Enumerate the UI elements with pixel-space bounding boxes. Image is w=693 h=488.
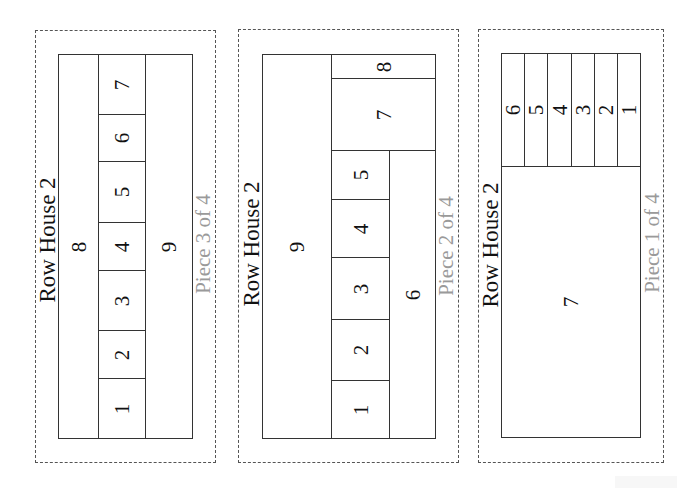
room-cell-6: 6 xyxy=(98,114,146,162)
room-cell-5: 5 xyxy=(524,53,548,167)
room-cell-9: 9 xyxy=(145,54,193,439)
panel-title: Row House 2 xyxy=(479,182,502,307)
room-number: 4 xyxy=(549,105,570,116)
room-cell-4: 4 xyxy=(98,222,146,271)
room-number: 7 xyxy=(373,109,394,120)
room-cell-4: 4 xyxy=(331,199,390,258)
room-cell-6: 6 xyxy=(389,150,436,439)
room-number: 8 xyxy=(68,241,89,252)
room-cell-2: 2 xyxy=(331,319,390,381)
room-cell-7: 7 xyxy=(331,78,436,151)
panel-title: Row House 2 xyxy=(36,177,59,302)
room-cell-5: 5 xyxy=(98,161,146,223)
panel-title: Row House 2 xyxy=(240,181,263,306)
room-number: 3 xyxy=(112,295,133,306)
room-number: 8 xyxy=(373,61,394,72)
room-cell-3: 3 xyxy=(98,270,146,331)
room-number: 7 xyxy=(112,79,133,90)
room-cell-1: 1 xyxy=(98,378,146,439)
room-number: 5 xyxy=(350,170,371,181)
room-cell-3: 3 xyxy=(571,53,595,167)
room-cell-2: 2 xyxy=(98,330,146,379)
room-number: 3 xyxy=(573,105,594,116)
room-number: 3 xyxy=(350,283,371,294)
room-number: 6 xyxy=(402,289,423,300)
room-number: 2 xyxy=(112,349,133,360)
room-cell-8: 8 xyxy=(58,54,99,439)
room-cell-8: 8 xyxy=(331,54,436,79)
room-number: 4 xyxy=(112,241,133,252)
room-number: 6 xyxy=(503,105,524,116)
room-cell-7: 7 xyxy=(501,166,641,438)
room-cell-6: 6 xyxy=(501,53,525,167)
room-number: 5 xyxy=(112,187,133,198)
piece-label: Piece 3 of 4 xyxy=(193,194,214,294)
room-number: 5 xyxy=(526,105,547,116)
room-cell-9: 9 xyxy=(262,54,332,439)
room-cell-4: 4 xyxy=(547,53,572,167)
room-number: 6 xyxy=(112,133,133,144)
room-number: 9 xyxy=(287,241,308,252)
room-number: 9 xyxy=(159,241,180,252)
room-number: 1 xyxy=(112,403,133,414)
room-number: 4 xyxy=(350,223,371,234)
piece-label: Piece 2 of 4 xyxy=(436,196,457,296)
piece-label: Piece 1 of 4 xyxy=(642,193,663,293)
room-number: 2 xyxy=(596,105,617,116)
room-number: 1 xyxy=(350,404,371,415)
room-cell-1: 1 xyxy=(617,53,641,167)
room-cell-5: 5 xyxy=(331,150,390,200)
room-cell-1: 1 xyxy=(331,380,390,439)
room-cell-2: 2 xyxy=(594,53,618,167)
room-number: 1 xyxy=(619,105,640,116)
room-number: 7 xyxy=(561,297,582,308)
room-cell-3: 3 xyxy=(331,257,390,320)
room-number: 2 xyxy=(350,345,371,356)
room-cell-7: 7 xyxy=(98,54,146,115)
scan-artifact xyxy=(615,476,677,488)
